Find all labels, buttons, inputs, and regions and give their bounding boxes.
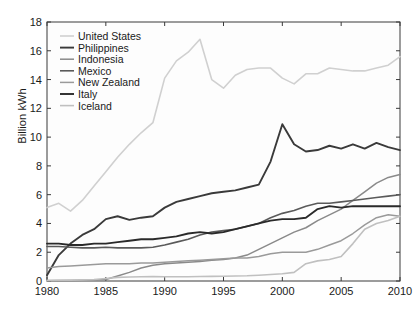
y-tick-label: 4	[36, 217, 42, 229]
x-tick-label: 2005	[329, 285, 353, 297]
x-tick-label: 1980	[35, 285, 59, 297]
x-tick-label: 2000	[270, 285, 294, 297]
y-tick-label: 2	[36, 246, 42, 258]
legend-label-mexico[interactable]: Mexico	[78, 65, 111, 77]
y-tick-label: 18	[30, 16, 42, 28]
legend-label-italy[interactable]: Italy	[78, 88, 98, 100]
legend-label-indonesia[interactable]: Indonesia	[78, 53, 124, 65]
y-tick-label: 16	[30, 45, 42, 57]
geothermal-generation-chart: Billion kWh 0246810121416181980198519901…	[0, 0, 420, 319]
y-tick-label: 10	[30, 131, 42, 143]
y-tick-label: 6	[36, 189, 42, 201]
legend-label-united-states[interactable]: United States	[78, 30, 141, 42]
legend-label-iceland[interactable]: Iceland	[78, 100, 112, 112]
chart-canvas: 0246810121416181980198519901995200020052…	[0, 0, 420, 319]
x-tick-label: 1985	[94, 285, 118, 297]
x-tick-label: 1990	[152, 285, 176, 297]
y-tick-label: 12	[30, 102, 42, 114]
y-tick-label: 14	[30, 74, 42, 86]
x-tick-label: 1995	[211, 285, 235, 297]
y-tick-label: 8	[36, 160, 42, 172]
legend-label-philippines[interactable]: Philippines	[78, 42, 129, 54]
legend-label-new-zealand[interactable]: New Zealand	[78, 76, 140, 88]
x-tick-label: 2010	[388, 285, 412, 297]
